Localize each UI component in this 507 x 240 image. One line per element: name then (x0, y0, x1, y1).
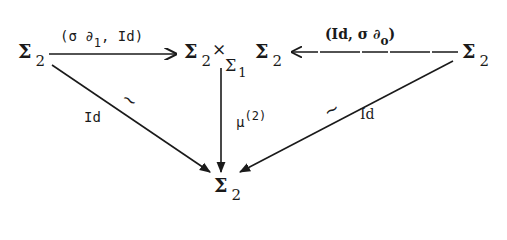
label-text: (Id, σ ∂ (325, 26, 380, 42)
sigma-symbol: Σ (462, 40, 475, 62)
label-text: ) (388, 26, 395, 42)
node-center-base: Σ1 (225, 58, 247, 74)
label-vertical-mu: μ(2) (236, 115, 266, 129)
subscript: 2 (272, 52, 282, 70)
node-left-sigma2: Σ2 (18, 42, 45, 61)
label-subscript: 1 (94, 36, 101, 50)
node-center-product: Σ2× (184, 42, 226, 61)
label-superscript: (2) (244, 109, 266, 123)
label-top-right: (Id, σ ∂o) (325, 27, 395, 41)
sigma-symbol: Σ (184, 40, 197, 62)
node-bottom-sigma2: Σ2 (214, 176, 241, 195)
sigma-symbol: Σ (255, 40, 268, 62)
label-diag-right-id: Id (360, 107, 375, 121)
arrow-diag-right (240, 61, 453, 172)
label-text: , Id) (101, 28, 143, 44)
subscript: 1 (238, 65, 246, 80)
sigma-symbol: Σ (225, 56, 236, 75)
subscript: 2 (231, 186, 241, 204)
arrow-diag-left (52, 65, 210, 172)
label-diag-left-id: Id (84, 110, 101, 124)
subscript: 2 (35, 52, 45, 70)
label-top-left: (σ ∂1, Id) (60, 29, 143, 43)
label-subscript: o (380, 34, 388, 48)
sigma-symbol: Σ (18, 40, 31, 62)
node-right-sigma2: Σ2 (462, 42, 489, 61)
label-text: (σ ∂ (60, 28, 94, 44)
node-center-right-sigma2: Σ2 (255, 42, 282, 61)
sigma-symbol: Σ (214, 174, 227, 196)
subscript: 2 (479, 52, 489, 70)
subscript: 2 (201, 52, 211, 70)
